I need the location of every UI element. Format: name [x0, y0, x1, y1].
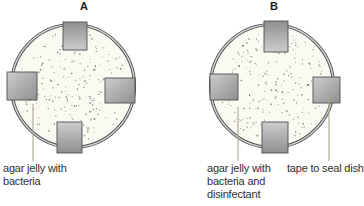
dish-b-caption: agar jelly with bacteria and disinfectan…: [207, 162, 271, 201]
dish-a-tape-right: [105, 78, 135, 103]
dish-a-tape-bottom: [57, 122, 82, 153]
dish-b-tape-left: [210, 74, 238, 100]
dish-a-caption-line1: agar jelly with: [3, 162, 67, 175]
dish-a-tape-left: [7, 72, 37, 100]
dish-a-caption: agar jelly with bacteria: [3, 162, 67, 188]
dish-a-tape-top: [63, 22, 87, 50]
dish-b-caption-line1: agar jelly with: [207, 162, 271, 175]
petri-dish-diagram: A B agar jelly with bacteria agar jelly …: [0, 0, 364, 206]
dish-a-letter-label: A: [76, 0, 92, 13]
dish-b-tape-top: [264, 21, 288, 52]
dish-b-tape-bottom: [262, 122, 288, 153]
dish-b-letter-label: B: [266, 0, 282, 13]
dish-a: [7, 22, 135, 161]
tape-caption: tape to seal dish: [287, 162, 364, 175]
dish-b-caption-line2: bacteria and: [207, 175, 271, 188]
dish-b: [210, 21, 340, 161]
dish-b-caption-line3: disinfectant: [207, 188, 271, 201]
dish-b-tape-right: [313, 77, 340, 103]
dish-a-caption-line2: bacteria: [3, 175, 67, 188]
